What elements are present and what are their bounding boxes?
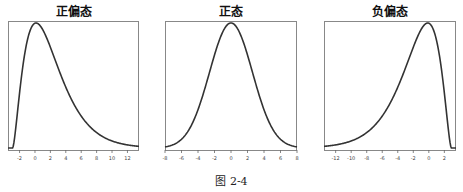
x-tick-label: 6: [80, 155, 83, 161]
chart-panel-2: 负偏态-12-10-8-6-4-202: [324, 0, 456, 165]
x-tick-label: 12: [124, 155, 130, 161]
x-tick-label: 0: [427, 155, 430, 161]
x-tick-label: 4: [64, 155, 67, 161]
x-tick-label: -10: [347, 155, 355, 161]
density-curve: [324, 23, 456, 148]
x-tick-label: -6: [179, 155, 184, 161]
plot-area: -12-10-8-6-4-202: [324, 0, 456, 165]
x-tick-label: 10: [109, 155, 115, 161]
chart-panel-1: 正态-8-6-4-202468: [165, 0, 297, 165]
x-tick-label: -6: [380, 155, 385, 161]
x-tick-label: 0: [229, 155, 232, 161]
x-tick-label: 0: [33, 155, 36, 161]
density-curve: [165, 23, 297, 147]
x-tick-label: -2: [411, 155, 416, 161]
x-tick-label: 4: [262, 155, 265, 161]
x-tick-label: 2: [49, 155, 52, 161]
x-tick-label: -4: [196, 155, 201, 161]
x-tick-label: 8: [95, 155, 98, 161]
x-tick-label: -2: [17, 155, 22, 161]
chart-panel-0: 正偏态-2024681012: [8, 0, 139, 165]
x-tick-label: 8: [295, 155, 298, 161]
x-tick-label: -12: [332, 155, 340, 161]
x-tick-label: -8: [163, 155, 168, 161]
x-tick-label: 2: [443, 155, 446, 161]
x-tick-label: -4: [395, 155, 400, 161]
plot-frame: [166, 22, 297, 151]
plot-area: -8-6-4-202468: [165, 0, 297, 165]
x-tick-label: -2: [212, 155, 217, 161]
plot-area: -2024681012: [8, 0, 139, 165]
x-tick-label: 2: [246, 155, 249, 161]
x-tick-label: 6: [279, 155, 282, 161]
figure-caption: 图 2-4: [0, 172, 463, 188]
x-tick-label: -8: [364, 155, 369, 161]
density-curve: [8, 23, 139, 148]
